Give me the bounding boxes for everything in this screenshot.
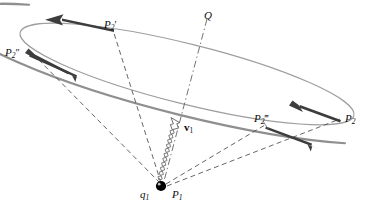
- label-q-point: Q: [204, 10, 212, 21]
- physics-orbit-diagram: P2′ P2″ P2‴ P2 P1 q1 Q v1: [0, 0, 371, 209]
- dashed-ray-to-p2-triple-prime: [166, 125, 265, 184]
- velocity-vector-v1: [158, 118, 180, 180]
- dashed-ray-group: [31, 30, 340, 186]
- label-velocity-v1: v1: [184, 122, 193, 133]
- diagram-canvas: [0, 0, 371, 209]
- orbit-ellipse: [0, 0, 361, 155]
- point-charge-q1: [156, 181, 166, 191]
- dashed-ray-to-p2-prime: [113, 30, 161, 183]
- label-p2-prime: P2′: [104, 19, 116, 30]
- label-q1-charge: q1: [140, 189, 149, 200]
- label-p2: P2: [345, 113, 355, 124]
- label-p2-double-prime: P2″: [5, 47, 19, 58]
- motion-arrow-p2: [289, 100, 341, 122]
- label-p2-triple-prime: P2‴: [254, 113, 268, 124]
- label-p1: P1: [172, 189, 182, 200]
